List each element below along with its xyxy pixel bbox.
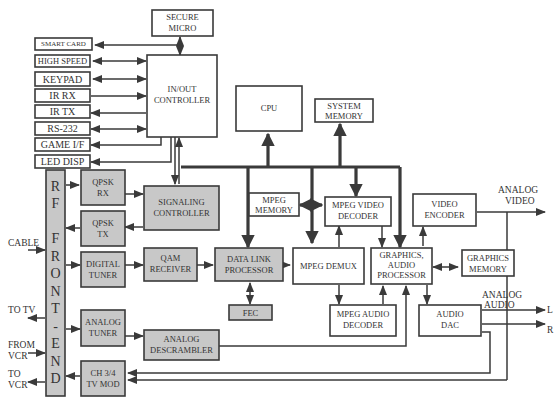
- analog-tuner-label-1: ANALOG: [85, 317, 121, 327]
- mpeg-memory-label-1: MPEG: [262, 195, 286, 205]
- qam-receiver-block: QAM RECEIVER: [144, 248, 197, 281]
- signaling-controller-label-2: CONTROLLER: [153, 208, 210, 218]
- graphics-audio-processor-block: GRAPHICS, AUDIO PROCESSOR: [371, 248, 432, 284]
- rf-front-end-letter: R: [51, 179, 61, 194]
- rf-front-end-letter: N: [50, 284, 60, 299]
- audio-dac-label-2: DAC: [441, 320, 459, 330]
- ir-rx-label: IR RX: [49, 90, 76, 101]
- analog-descrambler-block: ANALOG DESCRAMBLER: [144, 330, 219, 360]
- qam-receiver-label-1: QAM: [161, 253, 181, 263]
- analog-video-label-1: ANALOG: [498, 185, 538, 195]
- right-channel-label: R: [547, 325, 554, 335]
- mpeg-memory-block: MPEG MEMORY: [249, 193, 299, 216]
- rf-front-end-letter: N: [50, 354, 60, 369]
- video-encoder-label-2: ENCODER: [424, 210, 464, 220]
- io-controller-block: IN/OUT CONTROLLER: [147, 55, 217, 137]
- graphics-audio-processor-label-3: PROCESSOR: [377, 270, 426, 280]
- mpeg-video-decoder-label-1: MPEG VIDEO: [332, 200, 384, 210]
- video-encoder-label-1: VIDEO: [431, 199, 457, 209]
- ch34-tv-mod-block: CH 3/4 TV MOD: [81, 361, 125, 396]
- rf-front-end-letter: F: [52, 231, 60, 246]
- mpeg-video-decoder-block: MPEG VIDEO DECODER: [325, 197, 391, 226]
- qpsk-rx-block: QPSK RX: [81, 170, 125, 205]
- analog-audio-label-1: ANALOG: [482, 290, 522, 300]
- qpsk-tx-label-2: TX: [97, 229, 108, 239]
- qpsk-rx-label-2: RX: [97, 188, 109, 198]
- high-speed-block: HIGH SPEED: [35, 55, 90, 67]
- graphics-memory-label-1: GRAPHICS: [467, 253, 509, 263]
- io-controller-label-2: CONTROLLER: [154, 95, 211, 105]
- system-memory-label-2: MEMORY: [325, 111, 363, 121]
- graphics-memory-label-2: MEMORY: [469, 264, 507, 274]
- digital-tuner-label-2: TUNER: [89, 270, 118, 280]
- rf-front-end-letter: D: [50, 371, 60, 386]
- game-if-link: [91, 137, 161, 145]
- signaling-controller-block: SIGNALING CONTROLLER: [144, 186, 219, 230]
- analog-tuner-block: ANALOG TUNER: [81, 310, 125, 346]
- system-memory-label-1: SYSTEM: [327, 101, 361, 111]
- data-link-processor-label-1: DATA LINK: [227, 254, 272, 264]
- from-vcr-label-1: FROM: [8, 340, 35, 350]
- mpeg-demux-block: MPEG DEMUX: [293, 248, 364, 284]
- mpeg-video-decoder-label-2: DECODER: [338, 211, 378, 221]
- mpeg-audio-decoder-label-2: DECODER: [343, 320, 383, 330]
- ch34-tv-mod-label-1: CH 3/4: [91, 368, 117, 378]
- from-vcr-label-2: VCR: [8, 351, 28, 361]
- cable-label: CABLE: [8, 238, 39, 248]
- rf-front-end-letter: T: [51, 301, 60, 316]
- ir-tx-label: IR TX: [50, 106, 76, 117]
- fec-label: FEC: [243, 308, 259, 318]
- rf-front-end-letter: O: [50, 266, 60, 281]
- graphics-audio-processor-label-1: GRAPHICS,: [379, 250, 423, 260]
- secure-micro-label-1: SECURE: [166, 12, 199, 22]
- rf-front-end-letter: R: [51, 249, 61, 264]
- cpu-label: CPU: [261, 103, 278, 113]
- analog-tuner-label-2: TUNER: [89, 328, 118, 338]
- high-speed-label: HIGH SPEED: [38, 56, 87, 66]
- rf-front-end-block: RFFRONT-END: [46, 170, 65, 396]
- digital-tuner-block: DIGITAL TUNER: [81, 252, 125, 287]
- system-memory-block: SYSTEM MEMORY: [315, 99, 373, 122]
- audio-dac-label-1: AUDIO: [436, 309, 463, 319]
- led-disp-block: LED DISP: [35, 155, 90, 168]
- graphics-audio-processor-label-2: AUDIO: [388, 260, 415, 270]
- led-disp-link: [91, 137, 171, 162]
- analog-audio-label-2: AUDIO: [484, 300, 515, 310]
- mpeg-demux-label: MPEG DEMUX: [300, 261, 357, 271]
- mpeg-audio-decoder-block: MPEG AUDIO DECODER: [330, 305, 396, 336]
- ir-rx-block: IR RX: [35, 89, 90, 102]
- digital-tuner-label-1: DIGITAL: [86, 259, 120, 269]
- to-vcr-label-2: VCR: [8, 380, 28, 390]
- video-encoder-block: VIDEO ENCODER: [413, 194, 476, 226]
- cpu-block: CPU: [236, 86, 302, 131]
- analog-descrambler-label-2: DESCRAMBLER: [150, 345, 213, 355]
- smart-card-label: SMART CARD: [41, 40, 86, 48]
- data-link-processor-block: DATA LINK PROCESSOR: [215, 248, 283, 281]
- qpsk-rx-label-1: QPSK: [92, 177, 115, 187]
- to-tv-label: TO TV: [8, 305, 35, 315]
- signaling-controller-label-1: SIGNALING: [158, 197, 204, 207]
- io-controller-label-1: IN/OUT: [168, 84, 198, 94]
- analog-descrambler-label-1: ANALOG: [164, 334, 200, 344]
- led-disp-label: LED DISP: [41, 156, 85, 167]
- rf-front-end-letter: E: [51, 336, 60, 351]
- qpsk-tx-block: QPSK TX: [81, 211, 125, 246]
- to-vcr-label-1: TO: [8, 369, 21, 379]
- rs232-label: RS-232: [47, 123, 78, 134]
- data-link-processor-label-2: PROCESSOR: [225, 265, 274, 275]
- left-channel-label: L: [547, 305, 553, 315]
- mpeg-memory-label-2: MEMORY: [255, 205, 293, 215]
- mpeg-audio-decoder-label-1: MPEG AUDIO: [337, 309, 390, 319]
- rf-front-end-letter: F: [52, 196, 60, 211]
- ch34-tv-mod-label-2: TV MOD: [86, 379, 119, 389]
- graphics-memory-block: GRAPHICS MEMORY: [462, 250, 514, 276]
- secure-micro-label-2: MICRO: [169, 23, 197, 33]
- keypad-label: KEYPAD: [43, 74, 83, 85]
- qam-receiver-label-2: RECEIVER: [150, 264, 192, 274]
- analog-video-label-2: VIDEO: [505, 196, 535, 206]
- block-diagram: SECURE MICRO SMART CARD HIGH SPEED KEYPA…: [0, 0, 558, 408]
- secure-micro-block: SECURE MICRO: [152, 10, 213, 36]
- rs232-block: RS-232: [35, 122, 90, 135]
- smart-card-block: SMART CARD: [35, 38, 92, 50]
- ir-tx-block: IR TX: [35, 105, 90, 118]
